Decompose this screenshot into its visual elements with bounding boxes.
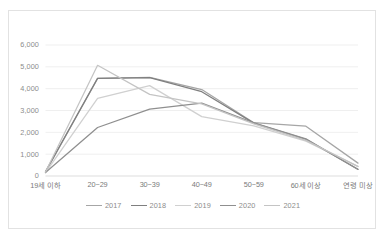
y-axis-tick-label: 4,000 bbox=[5, 84, 39, 93]
series-line-2021 bbox=[46, 65, 359, 172]
y-axis-tick-label: 2,000 bbox=[5, 128, 39, 137]
legend-swatch-icon bbox=[175, 205, 191, 207]
legend-label: 2017 bbox=[105, 201, 122, 210]
legend-item-2019[interactable]: 2019 bbox=[175, 201, 211, 210]
x-axis-tick-label: 연령 미상 bbox=[326, 180, 386, 190]
legend-label: 2019 bbox=[194, 201, 211, 210]
chart-legend: 20172018201920202021 bbox=[0, 201, 386, 210]
y-axis-tick-label: 3,000 bbox=[5, 106, 39, 115]
legend-item-2018[interactable]: 2018 bbox=[131, 201, 167, 210]
legend-label: 2021 bbox=[283, 201, 300, 210]
legend-swatch-icon bbox=[220, 205, 236, 207]
legend-swatch-icon bbox=[86, 205, 102, 207]
y-axis-tick-label: 6,000 bbox=[5, 40, 39, 49]
legend-item-2020[interactable]: 2020 bbox=[220, 201, 256, 210]
series-lines bbox=[46, 65, 359, 172]
gridlines bbox=[46, 45, 359, 176]
legend-swatch-icon bbox=[131, 205, 147, 207]
y-axis-tick-label: 1,000 bbox=[5, 150, 39, 159]
series-line-2020 bbox=[46, 103, 359, 172]
legend-swatch-icon bbox=[264, 205, 280, 207]
y-axis-tick-label: 5,000 bbox=[5, 62, 39, 71]
legend-item-2021[interactable]: 2021 bbox=[264, 201, 300, 210]
legend-item-2017[interactable]: 2017 bbox=[86, 201, 122, 210]
legend-label: 2018 bbox=[150, 201, 167, 210]
series-line-2018 bbox=[46, 78, 359, 172]
legend-label: 2020 bbox=[239, 201, 256, 210]
